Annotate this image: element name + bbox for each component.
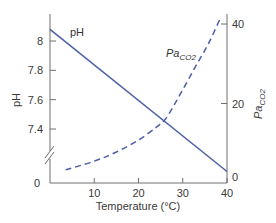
right-ticks: 02040 (221, 18, 244, 183)
left-tick-label: 7.4 (28, 123, 43, 135)
left-tick-label: 7.6 (28, 94, 43, 106)
ph-series-label: pH (70, 26, 84, 38)
right-axis-title: PaCO2 (252, 88, 267, 118)
left-axis-title: pH (10, 93, 22, 107)
x-tick-label: 30 (177, 187, 189, 199)
left-tick-label: 8 (37, 35, 43, 47)
right-tick-label: 40 (232, 18, 244, 30)
left-ticks: 87.87.67.4 (28, 35, 56, 135)
x-tick-label: 40 (221, 187, 233, 199)
x-tick-label: 20 (132, 187, 144, 199)
x-axis-title: Temperature (°C) (96, 200, 180, 212)
left-tick-label: 7.8 (28, 64, 43, 76)
ph-series-line (50, 29, 227, 171)
paco2-series-label: PaCO2 (166, 47, 196, 62)
x-tick-label: 10 (88, 187, 100, 199)
chart: 10203040 87.87.67.4 02040 0 pH PaCO2 Tem… (0, 0, 276, 223)
x-ticks: 10203040 (88, 178, 233, 199)
right-tick-label: 0 (232, 171, 238, 183)
right-tick-label: 20 (232, 98, 244, 110)
left-axis-zero-label: 0 (34, 177, 40, 189)
